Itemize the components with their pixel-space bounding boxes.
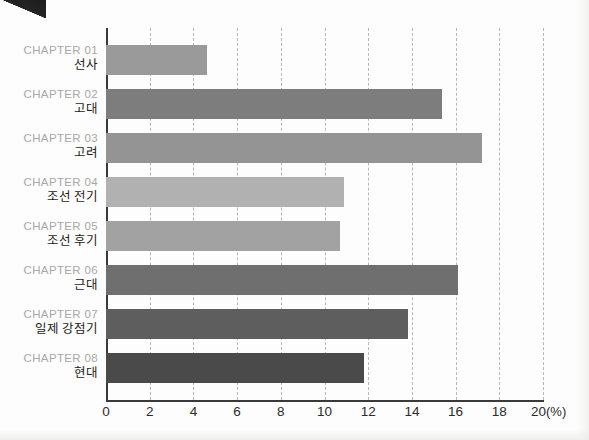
category-chapter-1: CHAPTER 01 — [0, 43, 98, 57]
x-tick-2: 2 — [146, 404, 154, 419]
x-tick-4: 4 — [190, 404, 198, 419]
category-chapter-8: CHAPTER 08 — [0, 351, 98, 365]
x-tick-6: 6 — [233, 404, 241, 419]
category-name-1: 선사 — [0, 58, 98, 73]
category-name-5: 조선 후기 — [0, 234, 98, 249]
category-chapter-7: CHAPTER 07 — [0, 307, 98, 321]
category-chapter-6: CHAPTER 06 — [0, 263, 98, 277]
bar-row[interactable] — [106, 309, 543, 339]
category-label-3: CHAPTER 03고려 — [0, 131, 98, 161]
x-tick-14: 14 — [404, 404, 419, 419]
gridline-8 — [281, 28, 282, 400]
category-label-5: CHAPTER 05조선 후기 — [0, 219, 98, 249]
category-name-4: 조선 전기 — [0, 190, 98, 205]
bar-row[interactable] — [106, 265, 543, 295]
bar-row[interactable] — [106, 133, 543, 163]
gridline-14 — [412, 28, 413, 400]
gridline-20 — [543, 28, 544, 400]
gridlines — [106, 28, 543, 400]
x-tick-0: 0 — [102, 404, 110, 419]
x-tick-20: 20(%) — [531, 404, 566, 419]
category-label-6: CHAPTER 06근대 — [0, 263, 98, 293]
category-chapter-4: CHAPTER 04 — [0, 175, 98, 189]
category-name-2: 고대 — [0, 102, 98, 117]
category-chapter-5: CHAPTER 05 — [0, 219, 98, 233]
y-axis-line — [106, 28, 108, 400]
category-name-3: 고려 — [0, 146, 98, 161]
x-tick-8: 8 — [277, 404, 285, 419]
gridline-2 — [150, 28, 151, 400]
bar-row[interactable] — [106, 45, 543, 75]
bar-chart: CHAPTER 01선사CHAPTER 02고대CHAPTER 03고려CHAP… — [0, 0, 589, 440]
gridline-4 — [193, 28, 194, 400]
bar-6[interactable] — [106, 265, 458, 295]
bar-3[interactable] — [106, 133, 482, 163]
bar-1[interactable] — [106, 45, 207, 75]
gridline-12 — [368, 28, 369, 400]
category-label-1: CHAPTER 01선사 — [0, 43, 98, 73]
bar-row[interactable] — [106, 177, 543, 207]
category-name-8: 현대 — [0, 366, 98, 381]
category-label-7: CHAPTER 07일제 강점기 — [0, 307, 98, 337]
category-label-4: CHAPTER 04조선 전기 — [0, 175, 98, 205]
x-axis-unit-label: (%) — [546, 404, 566, 419]
bar-row[interactable] — [106, 353, 543, 383]
gridline-18 — [499, 28, 500, 400]
category-name-6: 근대 — [0, 278, 98, 293]
bar-row[interactable] — [106, 221, 543, 251]
gridline-16 — [456, 28, 457, 400]
bar-4[interactable] — [106, 177, 344, 207]
x-axis-line — [106, 400, 544, 402]
bar-7[interactable] — [106, 309, 408, 339]
bar-row[interactable] — [106, 89, 543, 119]
bar-2[interactable] — [106, 89, 442, 119]
gridline-6 — [237, 28, 238, 400]
gridline-10 — [325, 28, 326, 400]
x-tick-16: 16 — [448, 404, 463, 419]
category-label-8: CHAPTER 08현대 — [0, 351, 98, 381]
category-label-2: CHAPTER 02고대 — [0, 87, 98, 117]
scanned-page: CHAPTER 01선사CHAPTER 02고대CHAPTER 03고려CHAP… — [0, 0, 589, 440]
category-chapter-2: CHAPTER 02 — [0, 87, 98, 101]
bar-8[interactable] — [106, 353, 364, 383]
bar-5[interactable] — [106, 221, 340, 251]
x-tick-10: 10 — [317, 404, 332, 419]
category-chapter-3: CHAPTER 03 — [0, 131, 98, 145]
x-tick-18: 18 — [492, 404, 507, 419]
x-tick-12: 12 — [361, 404, 376, 419]
category-name-7: 일제 강점기 — [0, 322, 98, 337]
